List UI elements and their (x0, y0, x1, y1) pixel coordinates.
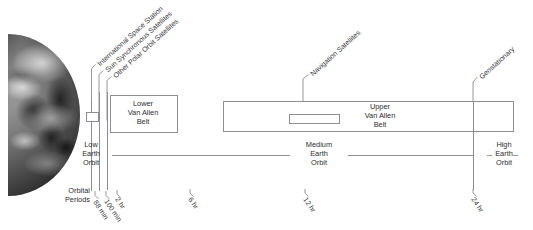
leo-line3: Orbit (77, 158, 105, 167)
lower-van-allen-belt-label: Lower Van Allen Belt (110, 99, 176, 127)
callout-label-sun-synchronous: Sun Synchronous Satellites (104, 10, 174, 74)
earth-image (8, 34, 80, 196)
navigation-satellite-marker (289, 114, 340, 124)
meo-line2: Earth (288, 149, 350, 158)
earth-terminator-shading (8, 34, 80, 196)
lower-belt-line2: Van Allen (110, 108, 176, 117)
leader-geostationary (473, 77, 478, 101)
orbit-diagram: International Space Station Sun Synchron… (0, 0, 533, 230)
meo-line1: Medium (288, 140, 350, 149)
orbital-periods-line2: Periods (44, 195, 90, 204)
upper-van-allen-belt-label: Upper Van Allen Belt (340, 102, 420, 130)
tick-label-12hr: 12 hr (301, 196, 317, 214)
tick-label-24hr: 24 hr (469, 196, 485, 214)
heo-line2: Earth (488, 149, 520, 158)
callout-label-geostationary: Geostationary (478, 45, 516, 81)
orbital-periods-line1: Orbital (44, 186, 90, 195)
upper-belt-line2: Van Allen (340, 111, 420, 120)
iss-marker (86, 112, 99, 122)
upper-belt-line1: Upper (340, 102, 420, 111)
lower-belt-line3: Belt (110, 117, 176, 126)
leo-line2: Earth (77, 149, 105, 158)
heo-line3: Orbit (488, 158, 520, 167)
lower-belt-line1: Lower (110, 99, 176, 108)
tick-label-6hr: 6 hr (186, 196, 199, 211)
leo-line1: Low (77, 140, 105, 149)
leader-iss (92, 65, 96, 116)
meo-line3: Orbit (288, 158, 350, 167)
medium-earth-orbit-label: Medium Earth Orbit (288, 140, 350, 168)
low-earth-orbit-label: Low Earth Orbit (77, 140, 105, 168)
high-earth-orbit-label: High Earth Orbit (488, 140, 520, 168)
tick-hook-88min (95, 191, 99, 199)
meo-line-left (112, 155, 290, 156)
orbit-line-geostationary (473, 101, 474, 190)
orbit-line-2hr (107, 92, 108, 190)
upper-belt-line3: Belt (340, 120, 420, 129)
orbital-periods-label: Orbital Periods (44, 186, 90, 204)
heo-line1: High (488, 140, 520, 149)
meo-line-right (348, 155, 473, 156)
callout-label-navigation-satellites: Navigation Satellites (309, 29, 362, 78)
